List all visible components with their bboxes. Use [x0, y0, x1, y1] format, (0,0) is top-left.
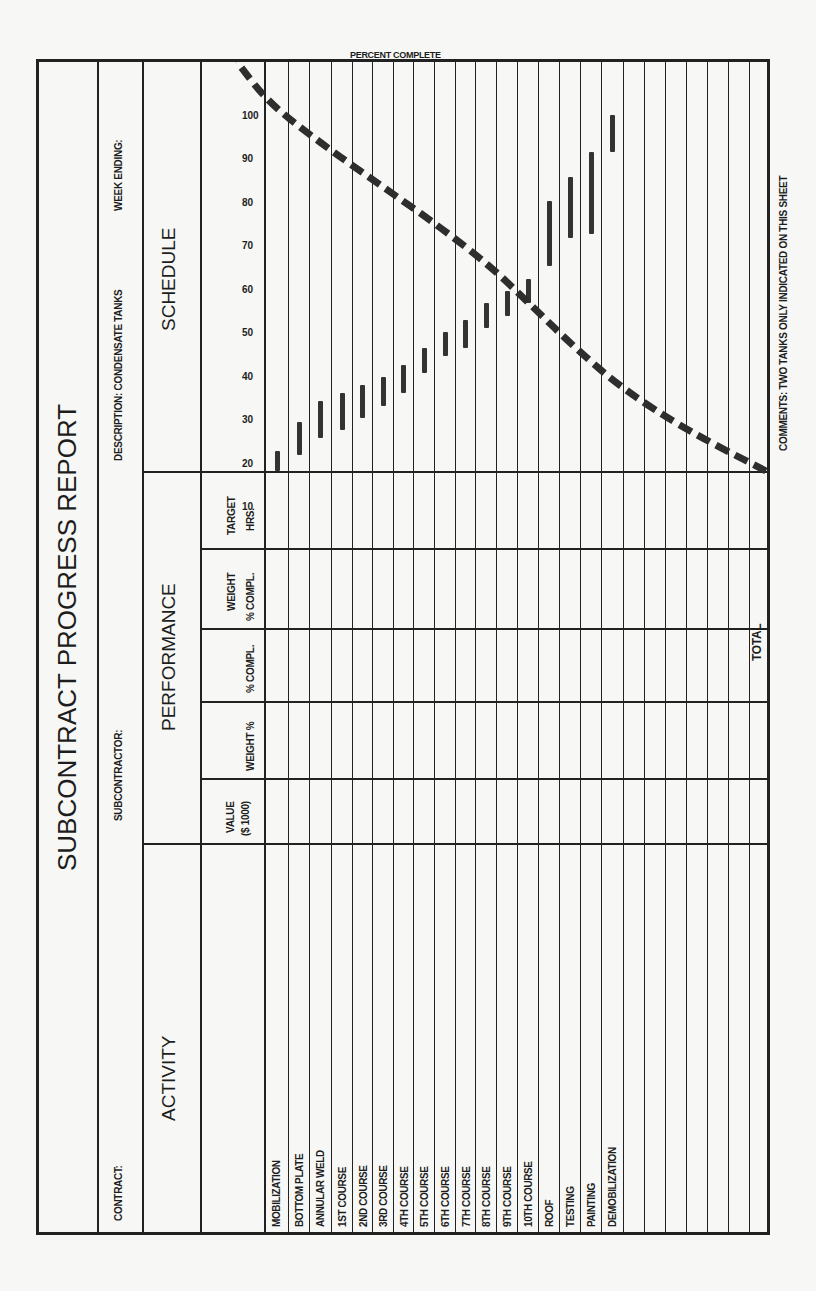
- schedule-bar: [505, 291, 510, 316]
- col-target-divider: [200, 548, 768, 550]
- schedule-bar: [275, 451, 280, 471]
- percent-axis-label: PERCENT COMPLETE: [350, 50, 441, 60]
- activity-label: PAINTING: [586, 1183, 597, 1227]
- col-weight-divider: [200, 778, 768, 780]
- percent-tick: 60: [242, 284, 253, 295]
- row-line: [288, 59, 289, 1235]
- row-line: [623, 59, 624, 1235]
- activity-label: MOBILIZATION: [271, 1160, 282, 1227]
- activity-label: 5TH COURSE: [419, 1167, 430, 1227]
- row-line: [644, 59, 645, 1235]
- schedule-bar: [443, 332, 448, 357]
- activity-label: 10TH COURSE: [523, 1161, 534, 1227]
- row-line: [309, 59, 310, 1235]
- border-top: [36, 59, 39, 1235]
- percent-tick: 50: [242, 328, 253, 339]
- row-line: [265, 59, 266, 1235]
- schedule-bar: [401, 365, 406, 394]
- schedule-bar: [463, 320, 468, 349]
- activity-label: 6TH COURSE: [440, 1167, 451, 1227]
- performance-header: PERFORMANCE: [158, 583, 180, 731]
- col-value-unit: ($ 1000): [240, 801, 251, 836]
- col-target-2: HRS.: [245, 508, 256, 531]
- comments: COMMENTS: TWO TANKS ONLY INDICATED ON TH…: [778, 176, 789, 451]
- week-ending-label: WEEK ENDING:: [113, 140, 124, 211]
- activity-label: 1ST COURSE: [337, 1167, 348, 1227]
- percent-tick: 30: [242, 415, 253, 426]
- schedule-bar: [360, 385, 365, 418]
- row-line: [517, 59, 518, 1235]
- row-line: [496, 59, 497, 1235]
- activity-label: 4TH COURSE: [399, 1167, 410, 1227]
- contract-label: CONTRACT:: [113, 1165, 124, 1221]
- row-line: [686, 59, 687, 1235]
- row-line: [393, 59, 394, 1235]
- row-line: [475, 59, 476, 1235]
- row-line: [434, 59, 435, 1235]
- activity-label: ROOF: [544, 1200, 555, 1227]
- schedule-bar: [381, 377, 386, 406]
- schedule-bar: [526, 279, 531, 304]
- row-line: [601, 59, 602, 1235]
- activity-label: 2ND COURSE: [358, 1165, 369, 1227]
- schedule-bar: [484, 303, 489, 328]
- schedule-bar: [568, 177, 573, 238]
- col-pc-divider: [200, 701, 768, 703]
- row-line: [352, 59, 353, 1235]
- col-wc-divider: [200, 628, 768, 630]
- info-divider: [142, 59, 144, 1235]
- row-line: [331, 59, 332, 1235]
- activity-label: ANNULAR WELD: [315, 1150, 326, 1227]
- col-weight-compl-1: WEIGHT: [226, 573, 237, 611]
- activity-label: 3RD COURSE: [378, 1165, 389, 1227]
- activity-label: 7TH COURSE: [461, 1167, 472, 1227]
- row-line: [413, 59, 414, 1235]
- percent-tick: 40: [242, 371, 253, 382]
- col-weight-compl-2: % COMPL.: [245, 573, 256, 621]
- percent-tick: 90: [242, 154, 253, 165]
- activity-label: BOTTOM PLATE: [294, 1154, 305, 1227]
- row-line: [707, 59, 708, 1235]
- info-divider-2: [142, 471, 200, 473]
- schedule-bar: [547, 201, 552, 266]
- schedule-bar: [422, 348, 427, 373]
- col-weight-pct: WEIGHT %: [245, 722, 256, 771]
- schedule-bar: [340, 393, 345, 430]
- col-value: VALUE: [225, 801, 236, 833]
- row-line: [455, 59, 456, 1235]
- col-pct-compl: % COMPL.: [245, 645, 256, 693]
- percent-tick: 100: [242, 110, 259, 121]
- schedule-divider: [200, 471, 768, 473]
- schedule-bar: [610, 115, 615, 152]
- percent-tick: 20: [242, 458, 253, 469]
- row-line: [728, 59, 729, 1235]
- activity-header: ACTIVITY: [158, 1035, 180, 1121]
- activity-label: TESTING: [565, 1186, 576, 1227]
- row-line: [559, 59, 560, 1235]
- title-divider: [97, 59, 99, 1235]
- schedule-header: SCHEDULE: [158, 228, 180, 331]
- total-label: TOTAL: [750, 624, 764, 661]
- schedule-bar: [589, 152, 594, 234]
- activity-label: 8TH COURSE: [481, 1167, 492, 1227]
- progress-report-form: MOBILIZATIONBOTTOM PLATEANNULAR WELD1ST …: [0, 0, 816, 1291]
- row-line: [372, 59, 373, 1235]
- subcontractor-label: SUBCONTRACTOR:: [113, 730, 124, 821]
- schedule-bar: [297, 422, 302, 455]
- col-target-1: TARGET: [226, 496, 237, 535]
- border-bottom: [767, 59, 770, 1235]
- activity-label: 9TH COURSE: [502, 1167, 513, 1227]
- percent-tick: 80: [242, 197, 253, 208]
- percent-tick: 70: [242, 241, 253, 252]
- row-line: [538, 59, 539, 1235]
- activity-label: DEMOBILIZATION: [607, 1147, 618, 1227]
- row-line: [665, 59, 666, 1235]
- description-label: DESCRIPTION: CONDENSATE TANKS: [113, 290, 124, 462]
- header-divider: [200, 59, 202, 1235]
- form-title: SUBCONTRACT PROGRESS REPORT: [52, 404, 83, 871]
- schedule-bar: [318, 401, 323, 438]
- border-left: [36, 1232, 770, 1235]
- row-line: [580, 59, 581, 1235]
